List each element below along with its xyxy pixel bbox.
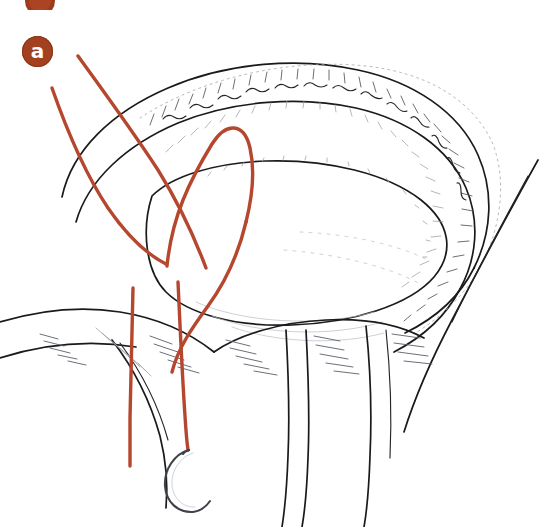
annulus-ring-outer <box>62 63 489 333</box>
tissue-flap-right <box>364 326 391 527</box>
annulus-rim-shading <box>150 69 473 321</box>
anatomy-group <box>0 63 538 527</box>
annulus-inner-hatching <box>166 101 443 287</box>
annulus-inner-shadow <box>196 302 384 341</box>
figure-root: a .ink { fill:none; stroke:#1a1a1a; stro… <box>0 0 549 527</box>
tissue-flap-center <box>282 330 309 527</box>
curved-surgical-needle <box>165 450 210 512</box>
tissue-left-hatching <box>96 328 151 376</box>
annulus-ring-inner <box>146 161 447 325</box>
surgical-illustration: .ink { fill:none; stroke:#1a1a1a; stroke… <box>0 0 549 527</box>
suture-1 <box>78 56 206 268</box>
annulus-crest-texture <box>163 83 466 200</box>
orifice-depth-marks <box>284 232 428 284</box>
